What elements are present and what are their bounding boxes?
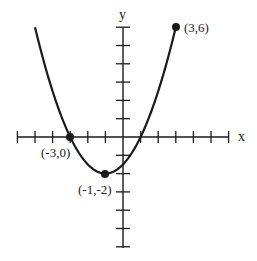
point-marker-neg3-0	[66, 133, 74, 141]
vertex-label: (-1,-2)	[78, 182, 112, 197]
vertex-marker	[101, 170, 109, 178]
point-label-neg3-0: (-3,0)	[41, 145, 70, 160]
parabola-graph: x y (3,6) (-3,0) (-1,-2)	[0, 0, 257, 261]
point-label-3-6: (3,6)	[184, 20, 209, 35]
point-marker-3-6	[172, 23, 180, 31]
x-axis-label: x	[238, 129, 245, 144]
plot-canvas: x y (3,6) (-3,0) (-1,-2)	[0, 0, 257, 261]
y-axis-label: y	[119, 7, 126, 22]
